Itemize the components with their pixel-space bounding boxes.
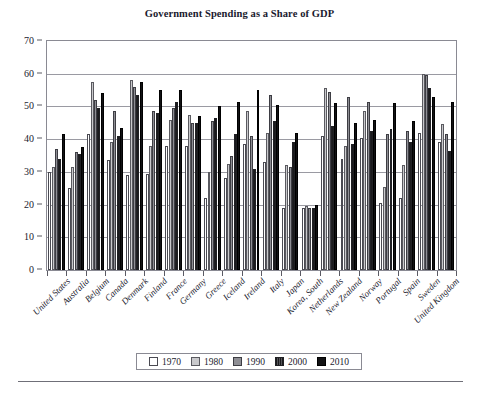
bar-group: [222, 41, 241, 270]
bar: [159, 90, 162, 270]
bar: [257, 90, 260, 270]
y-tick-mark: [37, 170, 42, 171]
bar: [276, 105, 279, 270]
legend-item[interactable]: 1980: [191, 357, 223, 367]
bar: [101, 93, 104, 270]
bar: [179, 90, 182, 270]
bar: [412, 121, 415, 270]
legend-swatch-icon: [317, 357, 326, 366]
legend-swatch-icon: [233, 357, 242, 366]
bar-group: [300, 41, 319, 270]
bar: [451, 102, 454, 270]
bar-group: [66, 41, 85, 270]
bar-group: [47, 41, 66, 270]
bar: [354, 123, 357, 270]
bar: [373, 120, 376, 270]
bar: [81, 147, 84, 270]
bar: [120, 128, 123, 270]
bar-group: [242, 41, 261, 270]
bar: [315, 205, 318, 270]
bar: [334, 103, 337, 270]
legend-swatch-icon: [149, 357, 158, 366]
bar: [218, 106, 221, 270]
x-axis-label: Ireland: [241, 276, 267, 302]
bar-group: [261, 41, 280, 270]
legend-item[interactable]: 2000: [275, 357, 307, 367]
y-tick-label: 50: [24, 100, 34, 111]
legend-item[interactable]: 1970: [149, 357, 181, 367]
bar-group: [320, 41, 339, 270]
y-tick-label: 20: [24, 198, 34, 209]
legend-swatch-icon: [275, 357, 284, 366]
legend-label: 2000: [288, 357, 307, 367]
bar-group: [417, 41, 436, 270]
y-tick-label: 70: [24, 35, 34, 46]
y-axis: 010203040506070: [0, 40, 42, 271]
bar: [295, 133, 298, 270]
bar: [140, 82, 143, 270]
bar-group: [378, 41, 397, 270]
legend-swatch-icon: [191, 357, 200, 366]
bar-group: [86, 41, 105, 270]
y-tick-label: 40: [24, 133, 34, 144]
chart-title: Government Spending as a Share of GDP: [0, 8, 479, 19]
y-tick-mark: [37, 203, 42, 204]
y-tick-mark: [37, 40, 42, 41]
legend-label: 1980: [204, 357, 223, 367]
y-tick-label: 0: [29, 264, 34, 275]
y-tick-mark: [37, 138, 42, 139]
bar-group: [105, 41, 124, 270]
y-tick-mark: [37, 105, 42, 106]
bar: [432, 97, 435, 270]
bar: [237, 102, 240, 270]
bar: [62, 134, 65, 270]
bar-group: [281, 41, 300, 270]
bar-group: [398, 41, 417, 270]
legend-item[interactable]: 2010: [317, 357, 349, 367]
y-tick-mark: [37, 269, 42, 270]
bar-group: [203, 41, 222, 270]
bar: [198, 116, 201, 270]
bar-group: [144, 41, 163, 270]
y-tick-mark: [37, 236, 42, 237]
bar-group: [339, 41, 358, 270]
legend-label: 2010: [330, 357, 349, 367]
bars-layer: [47, 41, 456, 270]
bar: [393, 103, 396, 270]
chart-container: Government Spending as a Share of GDP 01…: [0, 0, 479, 394]
bar-group: [359, 41, 378, 270]
y-tick-mark: [37, 72, 42, 73]
legend-item[interactable]: 1990: [233, 357, 265, 367]
chart-legend: 19701980199020002010: [136, 353, 362, 370]
legend-label: 1990: [246, 357, 265, 367]
y-tick-label: 10: [24, 231, 34, 242]
y-tick-label: 60: [24, 67, 34, 78]
bar-group: [183, 41, 202, 270]
bar-group: [164, 41, 183, 270]
bar-group: [437, 41, 456, 270]
bottom-divider: [18, 381, 463, 382]
x-axis-labels: United StatesAustraliaBelgiumCanadaDenma…: [0, 276, 479, 342]
y-tick-label: 30: [24, 165, 34, 176]
bar-group: [125, 41, 144, 270]
legend-label: 1970: [162, 357, 181, 367]
